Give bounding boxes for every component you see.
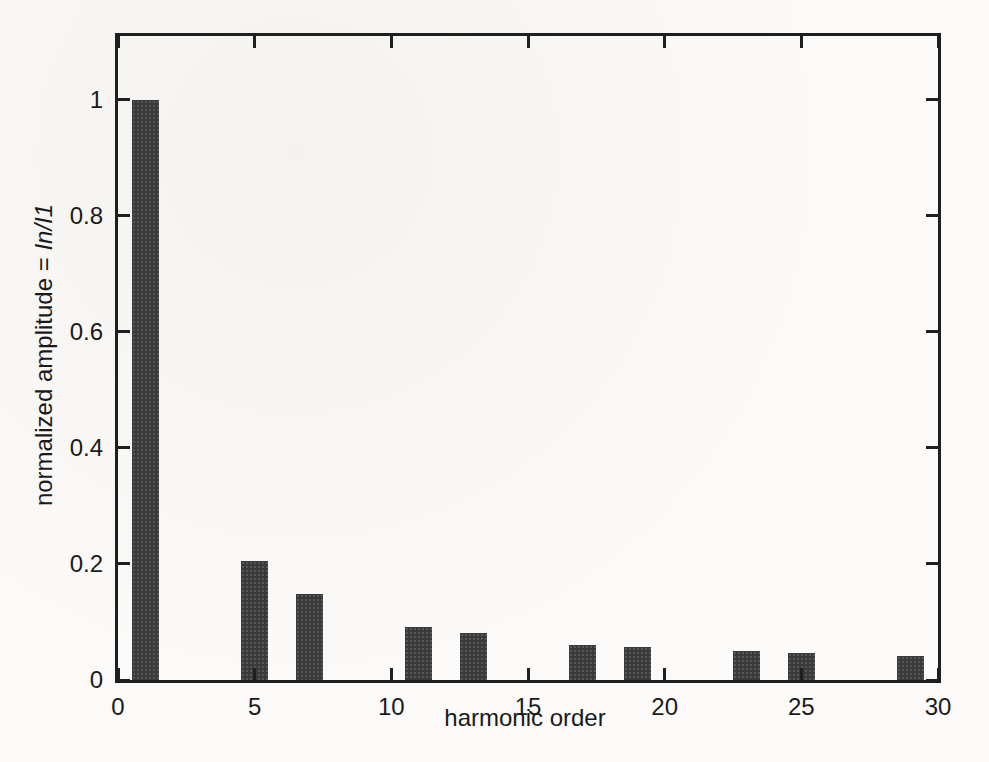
bar-h23 (733, 651, 760, 680)
x-tick-bottom-20 (663, 668, 666, 680)
bar-h11 (405, 627, 432, 680)
bar-h17 (569, 645, 596, 680)
y-tick-right-1 (926, 98, 938, 101)
y-tick-left-0.4 (118, 446, 130, 449)
bar-h29 (897, 656, 924, 680)
y-tick-label-0.2: 0.2 (0, 552, 103, 576)
x-tick-bottom-15 (527, 668, 530, 680)
bar-h13 (460, 633, 487, 680)
y-axis-label: normalized amplitude = In/I1 (30, 204, 58, 506)
y-tick-right-0 (926, 679, 938, 682)
x-tick-top-15 (527, 36, 530, 48)
x-tick-label-20: 20 (651, 695, 678, 719)
x-tick-top-20 (663, 36, 666, 48)
y-tick-right-0.6 (926, 330, 938, 333)
x-tick-label-5: 5 (248, 695, 261, 719)
x-tick-bottom-25 (800, 668, 803, 680)
y-axis-label-text: normalized amplitude = (30, 251, 57, 506)
y-tick-label-1: 1 (0, 88, 103, 112)
y-tick-label-0: 0 (0, 668, 103, 692)
y-tick-right-0.2 (926, 562, 938, 565)
y-tick-label-0.4: 0.4 (0, 436, 103, 460)
y-tick-label-0.8: 0.8 (0, 204, 103, 228)
y-tick-label-0.6: 0.6 (0, 320, 103, 344)
bar-h1 (132, 100, 159, 680)
x-tick-top-10 (390, 36, 393, 48)
x-tick-bottom-5 (253, 668, 256, 680)
x-tick-bottom-10 (390, 668, 393, 680)
y-tick-left-0.6 (118, 330, 130, 333)
y-tick-right-0.4 (926, 446, 938, 449)
y-tick-left-0 (118, 679, 130, 682)
plot-area (115, 33, 941, 683)
bar-h19 (624, 647, 651, 680)
x-tick-label-25: 25 (788, 695, 815, 719)
y-tick-left-0.2 (118, 562, 130, 565)
x-tick-label-10: 10 (378, 695, 405, 719)
x-tick-top-0 (117, 36, 120, 48)
figure: harmonic order normalized amplitude = In… (0, 0, 989, 762)
x-tick-top-30 (937, 36, 940, 48)
y-tick-left-1 (118, 98, 130, 101)
x-tick-label-0: 0 (111, 695, 124, 719)
x-tick-label-15: 15 (515, 695, 542, 719)
bar-h5 (241, 561, 268, 680)
bar-h7 (296, 594, 323, 680)
y-tick-left-0.8 (118, 214, 130, 217)
y-tick-right-0.8 (926, 214, 938, 217)
x-tick-top-25 (800, 36, 803, 48)
x-tick-top-5 (253, 36, 256, 48)
x-tick-label-30: 30 (925, 695, 952, 719)
